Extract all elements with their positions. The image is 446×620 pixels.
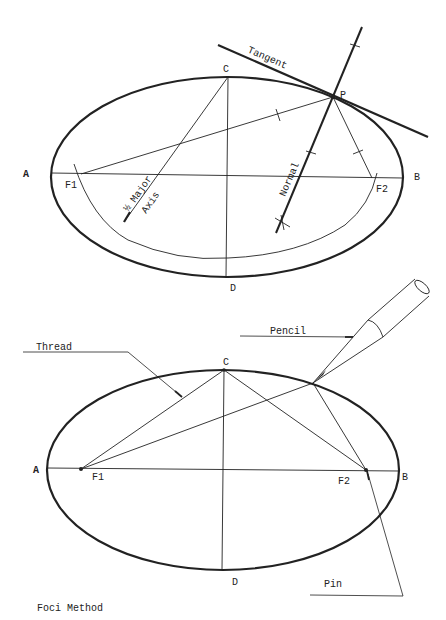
bottom-label-d: D (232, 577, 238, 588)
top-label-f2: F2 (376, 184, 388, 195)
bottom-label-a: A (33, 465, 39, 476)
ellipse-foci-method-figure: A B C D F1 F2 P Tangent Normal ½ Major A… (0, 0, 446, 620)
figure-caption: Foci Method (37, 603, 103, 614)
top-minor-axis (226, 77, 228, 278)
top-label-c: C (223, 64, 229, 75)
bottom-label-pin: Pin (324, 579, 342, 590)
bottom-thread-f1-pencil (81, 383, 313, 469)
top-label-b: B (414, 172, 420, 183)
bottom-pin-f1 (79, 467, 83, 471)
top-label-d: D (230, 283, 236, 294)
thread-leader (23, 352, 182, 397)
bottom-label-thread: Thread (36, 342, 72, 353)
bottom-ellipse-construction: A B C D F1 F2 Thread Pencil Pin (23, 278, 431, 596)
thread-leader-arrow (175, 391, 182, 397)
top-label-p: P (340, 90, 346, 101)
bottom-minor-axis (222, 370, 224, 570)
bottom-pin-c (222, 368, 226, 372)
bottom-label-f1: F1 (92, 472, 104, 483)
top-foci-arc (74, 164, 377, 259)
top-label-half-fraction: ½ (121, 202, 133, 213)
top-tick-pf2 (353, 150, 363, 154)
pencil-icon (313, 278, 431, 383)
top-label-a: A (23, 169, 29, 180)
bottom-label-pencil: Pencil (270, 326, 306, 337)
bottom-thread-c-f2 (224, 370, 366, 470)
bottom-label-b: B (402, 472, 408, 483)
bottom-thread-f1-c (81, 370, 224, 469)
bottom-label-c: C (223, 357, 229, 368)
top-point-p (331, 95, 335, 99)
top-label-f1: F1 (65, 180, 77, 191)
top-ellipse-construction: A B C D F1 F2 P Tangent Normal ½ Major A… (23, 27, 428, 294)
top-tick-f1p (276, 109, 280, 121)
top-tangent-line (218, 45, 428, 137)
bottom-label-f2: F2 (338, 476, 350, 487)
